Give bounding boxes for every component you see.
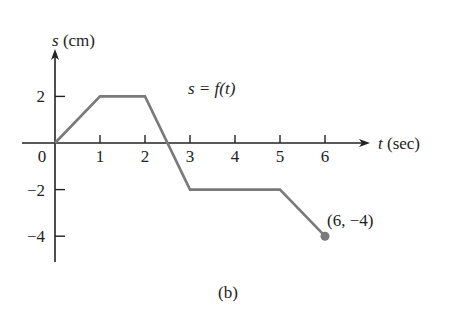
- y-tick-label: 2: [37, 87, 46, 106]
- y-ticks: 2−2−4: [27, 87, 65, 246]
- x-tick-label: 3: [186, 147, 195, 166]
- x-tick-label: 2: [141, 147, 150, 166]
- x-tick-label: 4: [231, 147, 240, 166]
- origin-label: 0: [38, 147, 47, 166]
- chart: 123456 2−2−4 0 s (cm) t (sec) s = f(t) (…: [0, 0, 453, 316]
- x-axis-label: t (sec): [378, 134, 420, 153]
- figure-caption: (b): [218, 283, 238, 302]
- end-point-label: (6, −4): [327, 211, 373, 230]
- x-tick-label: 1: [96, 147, 105, 166]
- x-ticks: 123456: [96, 135, 330, 166]
- y-tick-label: −2: [27, 181, 45, 200]
- y-tick-label: −4: [27, 227, 46, 246]
- x-tick-label: 5: [276, 147, 285, 166]
- end-point-marker: [321, 232, 330, 241]
- function-label: s = f(t): [188, 79, 236, 98]
- series-line: [55, 96, 325, 236]
- x-tick-label: 6: [321, 147, 330, 166]
- y-axis-label: s (cm): [52, 31, 95, 50]
